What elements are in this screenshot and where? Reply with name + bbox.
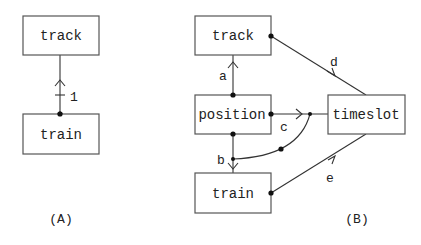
edge-b-junction-dot-icon bbox=[231, 157, 235, 161]
edge-a-source-dot-icon bbox=[230, 92, 235, 97]
node-timeslot-b-label: timeslot bbox=[332, 107, 399, 123]
edge-b-label: b bbox=[217, 153, 225, 168]
edge-1-source-dot-icon bbox=[57, 111, 62, 116]
edge-1-label: 1 bbox=[70, 90, 78, 105]
node-train-b[interactable]: train bbox=[195, 173, 271, 213]
edge-c-label: c bbox=[280, 120, 288, 135]
diagram-a: 1 track train (A) bbox=[23, 16, 99, 227]
node-timeslot-b[interactable]: timeslot bbox=[328, 95, 405, 134]
edge-b-source-dot-icon bbox=[230, 131, 235, 136]
edge-d-source-dot-icon bbox=[268, 33, 273, 38]
caption-a: (A) bbox=[49, 212, 72, 227]
edge-a-label: a bbox=[219, 69, 227, 84]
node-track-a[interactable]: track bbox=[23, 16, 99, 55]
node-train-b-label: train bbox=[212, 186, 254, 202]
edge-c-junction-dot-icon bbox=[308, 112, 312, 116]
edge-d-line bbox=[271, 36, 366, 95]
edge-e-line bbox=[271, 134, 366, 193]
node-position-b-label: position bbox=[198, 107, 265, 123]
caption-b: (B) bbox=[345, 212, 368, 227]
edge-e-source-dot-icon bbox=[268, 190, 273, 195]
edge-c-source-dot-icon bbox=[268, 111, 273, 116]
node-track-b[interactable]: track bbox=[195, 16, 271, 55]
edge-e-label: e bbox=[326, 171, 334, 186]
node-track-b-label: track bbox=[212, 28, 254, 44]
diagram-canvas: 1 track train (A) a b c d bbox=[0, 0, 421, 245]
link-curve-dot-icon bbox=[278, 146, 283, 151]
node-train-a[interactable]: train bbox=[23, 114, 99, 154]
edge-d-label: d bbox=[330, 55, 338, 70]
diagram-b: a b c d e track position bbox=[195, 16, 405, 227]
node-track-a-label: track bbox=[40, 28, 82, 44]
node-train-a-label: train bbox=[40, 127, 82, 143]
node-position-b[interactable]: position bbox=[195, 95, 271, 134]
